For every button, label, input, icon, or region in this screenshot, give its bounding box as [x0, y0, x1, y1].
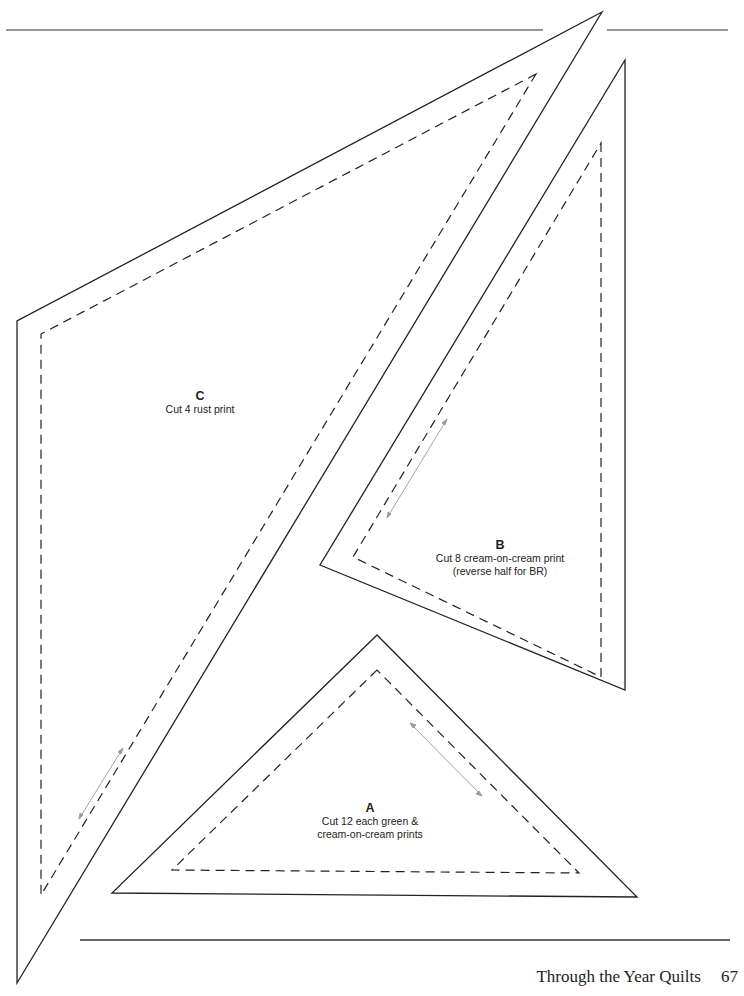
piece-a-letter: A: [290, 801, 450, 815]
piece-b-seam-line: [353, 143, 601, 677]
template-page: C Cut 4 rust print B Cut 8 cream-on-crea…: [0, 0, 744, 996]
page-footer: Through the Year Quilts 67: [536, 967, 738, 987]
piece-c-letter: C: [125, 389, 275, 403]
piece-a-cut-line: [112, 635, 637, 897]
piece-c-grain-arrow: [79, 748, 123, 819]
piece-b-grain-arrow: [387, 419, 447, 518]
piece-a-instruction: Cut 12 each green &: [290, 815, 450, 828]
piece-b-letter: B: [410, 538, 590, 552]
piece-a: [112, 635, 637, 897]
pattern-drawing: [0, 0, 744, 996]
piece-a-grain-arrow: [410, 723, 482, 796]
page-number: 67: [721, 967, 738, 986]
piece-c-instruction: Cut 4 rust print: [125, 403, 275, 416]
piece-a-label: A Cut 12 each green & cream-on-cream pri…: [290, 801, 450, 840]
piece-b: [320, 60, 625, 690]
piece-c-seam-line: [41, 74, 536, 895]
piece-c-label: C Cut 4 rust print: [125, 389, 275, 416]
piece-b-label: B Cut 8 cream-on-cream print (reverse ha…: [410, 538, 590, 577]
piece-a-seam-line: [172, 670, 579, 873]
piece-b-instruction: Cut 8 cream-on-cream print: [410, 552, 590, 565]
piece-a-instruction-2: cream-on-cream prints: [290, 828, 450, 841]
book-title: Through the Year Quilts: [536, 967, 700, 986]
piece-b-note: (reverse half for BR): [410, 565, 590, 578]
piece-b-cut-line: [320, 60, 625, 690]
